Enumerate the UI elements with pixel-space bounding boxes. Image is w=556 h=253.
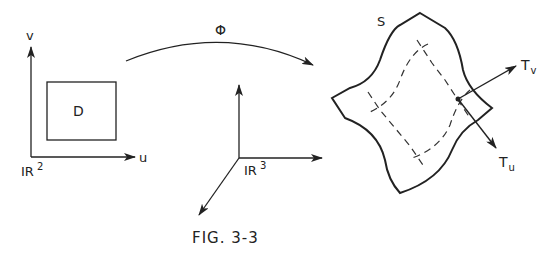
phi-label: Φ [215, 22, 226, 38]
surface: S Tv Tu [332, 13, 537, 193]
v-axis-label: v [26, 28, 34, 43]
x-axis [199, 158, 239, 215]
coordinate-grid [368, 40, 470, 168]
surface-outline [332, 13, 492, 193]
r2-label: IR2 [21, 161, 43, 179]
mapping-arrow: Φ [126, 22, 313, 65]
tangent-v-vector [458, 66, 516, 99]
u-axis-label: u [139, 150, 147, 165]
tangent-v-label: Tv [520, 57, 537, 76]
domain-panel: v u D IR2 [21, 28, 147, 179]
figure-canvas: v u D IR2 Φ IR3 S [0, 0, 556, 253]
figure-caption: FIG. 3-3 [192, 229, 259, 247]
phi-arc [126, 42, 313, 65]
region-d-label: D [73, 103, 84, 119]
surface-label: S [377, 14, 385, 29]
tangent-u-label: Tu [498, 154, 515, 173]
r3-label: IR3 [244, 160, 266, 178]
target-panel: IR3 [199, 85, 322, 215]
